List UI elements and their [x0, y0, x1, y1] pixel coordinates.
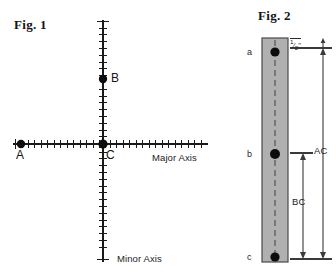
fig1-graphic — [0, 0, 336, 273]
fig2-title: Fig. 2 — [258, 8, 291, 24]
point-b-marker — [99, 75, 107, 83]
bar-point-a-marker — [270, 47, 279, 56]
half-inch-numerator: 1 — [290, 38, 293, 45]
diagram-canvas: Fig. 1 A B C Major Axis Minor Axis Fig. … — [0, 0, 336, 273]
fig1-point-c-label: C — [106, 148, 115, 162]
bar-point-b-marker — [270, 149, 280, 159]
fig2-point-b-label: b — [247, 149, 252, 159]
dimension-bc-label: BC — [292, 196, 306, 207]
fig1-point-a-label: A — [16, 148, 24, 162]
dimension-ac-label: AC — [314, 145, 328, 156]
bar-point-c-marker — [270, 252, 279, 261]
minor-axis-label: Minor Axis — [117, 253, 162, 264]
dimension-half-inch-label: 1⁄2" — [290, 38, 301, 51]
fig1-point-b-label: B — [111, 71, 119, 85]
major-axis-label: Major Axis — [152, 152, 197, 163]
fig1-title: Fig. 1 — [14, 17, 47, 33]
point-a-marker — [17, 140, 25, 148]
half-inch-unit: " — [298, 41, 301, 50]
fig2-point-c-label: c — [247, 252, 252, 262]
dimension-half-inch — [321, 38, 326, 47]
half-inch-fraction: 1⁄2" — [290, 38, 301, 51]
fig2-point-a-label: a — [247, 47, 252, 57]
